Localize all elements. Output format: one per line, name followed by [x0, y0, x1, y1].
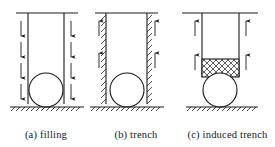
caption-panel-c: (c) induced trench — [180, 129, 275, 141]
panel-b-right-wall-hatching — [147, 15, 152, 104]
panel-a-filling — [10, 13, 84, 111]
figure-container: (a) filling (b) trench (c) induced trenc… — [0, 0, 275, 147]
caption-row: (a) filling (b) trench (c) induced trenc… — [0, 126, 275, 144]
panel-b-trench — [90, 13, 164, 111]
caption-panel-b: (b) trench — [92, 129, 180, 141]
panel-b-left-wall-hatching — [101, 15, 106, 104]
panel-b-pipe — [110, 73, 144, 107]
panel-c-pipe — [203, 73, 237, 107]
panel-c-induced-trench — [182, 13, 258, 111]
panel-a-pipe — [29, 73, 63, 107]
caption-panel-a: (a) filling — [0, 129, 92, 141]
diagram-svg — [0, 0, 275, 147]
